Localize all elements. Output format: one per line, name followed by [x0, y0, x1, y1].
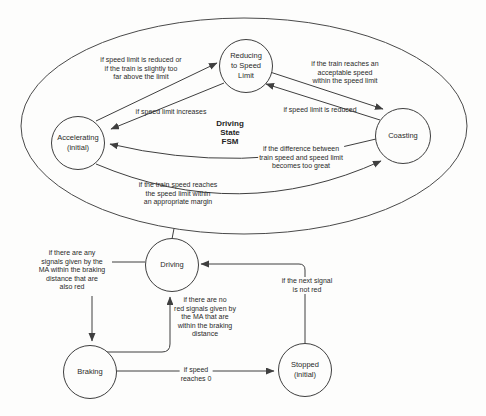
label-accelerating-to-reducing: if speed limit is reduced or if the trai… — [100, 56, 181, 82]
state-accelerating-initial: Accelerating (initial) — [51, 116, 105, 170]
state-driving: Driving — [145, 238, 199, 292]
label-driving-to-braking: if there are any signals given by the MA… — [38, 249, 107, 292]
label-reducing-to-accelerating: if speed limit increases — [136, 108, 207, 117]
label-braking-to-driving: if there are no red signals given by the… — [173, 296, 237, 339]
label-reducing-to-coasting: if the train reaches an acceptable speed… — [311, 60, 378, 86]
label-stopped-to-driving: if the next signal is not red — [281, 277, 334, 294]
state-coasting: Coasting — [375, 108, 431, 164]
label-accelerating-to-coasting: if the train speed reaches the speed lim… — [139, 181, 218, 207]
label-coasting-to-reducing: if speed limit is reduced — [283, 106, 356, 115]
state-reducing-to-speed-limit: Reducing to Speed Limit — [219, 39, 273, 93]
state-stopped-initial: Stopped (initial) — [278, 343, 332, 397]
train-driving-fsm-diagram: Reducing to Speed Limit Accelerating (in… — [0, 0, 486, 416]
label-coasting-to-accelerating: if the difference between train speed an… — [258, 145, 344, 171]
arrow-braking-to-driving — [107, 297, 170, 352]
state-braking: Braking — [63, 345, 117, 399]
label-braking-to-stopped: if speed reaches 0 — [180, 366, 213, 383]
inner-fsm-title: Driving State FSM — [216, 119, 244, 146]
